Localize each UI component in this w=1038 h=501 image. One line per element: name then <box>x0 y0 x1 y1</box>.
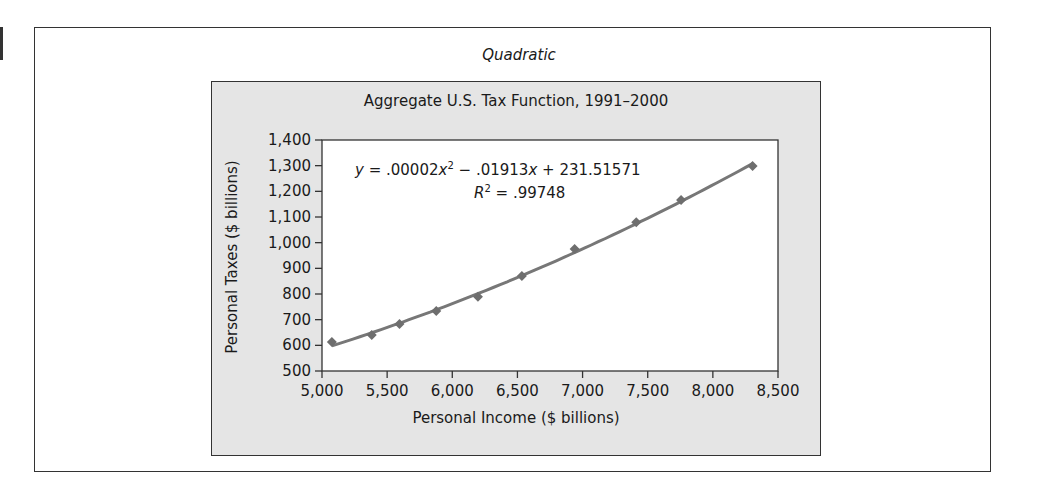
y-tick-label: 1,100 <box>268 208 311 226</box>
r2-r: R <box>474 184 484 202</box>
r2-value: = .99748 <box>491 184 566 202</box>
y-tick-label: 1,000 <box>268 234 311 252</box>
x-tick-label: 5,500 <box>366 382 409 400</box>
x-axis-ticks: 5,0005,5006,0006,5007,0007,5008,0008,500 <box>301 371 800 400</box>
y-axis-ticks: 5006007008009001,0001,1001,2001,3001,400 <box>268 131 322 380</box>
eq-plus: + <box>537 161 559 179</box>
regression-equation: y = .00002x2 − .01913x + 231.51571 <box>355 161 641 179</box>
r-squared: R2 = .99748 <box>474 184 565 202</box>
eq-x: x <box>528 161 537 179</box>
eq-equals: = <box>364 161 386 179</box>
y-tick-label: 700 <box>282 311 311 329</box>
y-tick-label: 500 <box>282 362 311 380</box>
eq-y: y <box>355 161 364 179</box>
x-tick-label: 8,500 <box>757 382 800 400</box>
y-tick-label: 1,200 <box>268 182 311 200</box>
y-tick-label: 600 <box>282 336 311 354</box>
eq-c1: .01913 <box>476 161 529 179</box>
y-tick-label: 1,300 <box>268 157 311 175</box>
x-tick-label: 8,000 <box>691 382 734 400</box>
eq-c2: .00002 <box>386 161 439 179</box>
eq-c0: 231.51571 <box>559 161 640 179</box>
x-tick-label: 6,000 <box>431 382 474 400</box>
x-tick-label: 7,000 <box>561 382 604 400</box>
x-tick-label: 5,000 <box>301 382 344 400</box>
x-tick-label: 6,500 <box>496 382 539 400</box>
y-tick-label: 1,400 <box>268 131 311 149</box>
y-tick-label: 800 <box>282 285 311 303</box>
eq-minus: − <box>454 161 476 179</box>
y-tick-label: 900 <box>282 259 311 277</box>
x-tick-label: 7,500 <box>626 382 669 400</box>
chart-plot: 5,0005,5006,0006,5007,0007,5008,0008,500… <box>0 0 1038 501</box>
